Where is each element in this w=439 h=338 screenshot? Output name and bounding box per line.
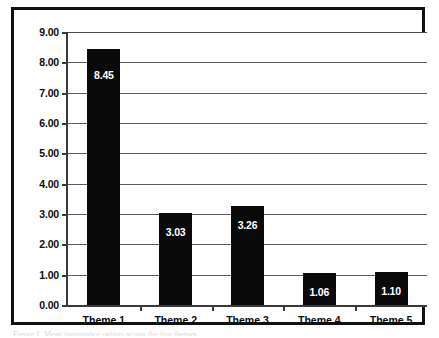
- bar-value-label: 8.45: [87, 69, 120, 81]
- y-axis-tick-label: 7.00: [39, 87, 59, 99]
- bar[interactable]: 3.03: [159, 213, 192, 305]
- figure-frame: 9.008.007.006.005.004.003.002.001.000.00…: [11, 7, 425, 325]
- y-axis-tick-label: 5.00: [39, 147, 59, 159]
- y-axis-tick: [62, 123, 68, 125]
- bar-value-label: 1.06: [303, 286, 336, 298]
- y-axis-tick-label: 2.00: [39, 238, 59, 250]
- bar-value-label: 1.10: [375, 285, 408, 297]
- bar[interactable]: 1.06: [303, 273, 336, 305]
- x-axis-tick: [140, 305, 142, 311]
- y-axis-tick: [62, 214, 68, 216]
- y-axis-tick-label: 0.00: [39, 299, 59, 311]
- gridline: [68, 123, 427, 124]
- y-axis-tick-label: 9.00: [39, 26, 59, 38]
- y-axis-tick: [62, 305, 68, 307]
- y-axis-tick: [62, 93, 68, 95]
- bar[interactable]: 1.10: [375, 272, 408, 305]
- bar-value-label: 3.26: [231, 219, 264, 231]
- gridline: [68, 184, 427, 185]
- x-axis-category-label: Theme 3: [226, 314, 269, 326]
- y-axis-tick: [62, 184, 68, 186]
- x-axis-tick: [283, 305, 285, 311]
- gridline: [68, 153, 427, 154]
- gridline: [68, 93, 427, 94]
- x-axis-tick: [212, 305, 214, 311]
- bar[interactable]: 8.45: [87, 49, 120, 305]
- y-axis-tick: [62, 275, 68, 277]
- x-axis-tick: [355, 305, 357, 311]
- y-axis-tick: [62, 153, 68, 155]
- y-axis-tick-label: 1.00: [39, 269, 59, 281]
- x-axis-category-label: Theme 5: [370, 314, 413, 326]
- y-axis-tick-label: 3.00: [39, 208, 59, 220]
- x-axis-category-label: Theme 1: [83, 314, 126, 326]
- y-axis-tick: [62, 244, 68, 246]
- figure-caption-fragment: Figure 1. Mean importance ratings across…: [13, 330, 313, 336]
- y-axis-tick-label: 8.00: [39, 56, 59, 68]
- y-axis-tick-label: 4.00: [39, 178, 59, 190]
- bar-value-label: 3.03: [159, 226, 192, 238]
- y-axis-tick: [62, 32, 68, 34]
- y-axis-tick: [62, 62, 68, 64]
- bar[interactable]: 3.26: [231, 206, 264, 305]
- x-axis-category-label: Theme 2: [154, 314, 197, 326]
- gridline: [68, 32, 427, 33]
- y-axis-tick-label: 6.00: [39, 117, 59, 129]
- x-axis-category-label: Theme 4: [298, 314, 341, 326]
- chart-plot-area: 9.008.007.006.005.004.003.002.001.000.00…: [66, 32, 427, 307]
- gridline: [68, 62, 427, 63]
